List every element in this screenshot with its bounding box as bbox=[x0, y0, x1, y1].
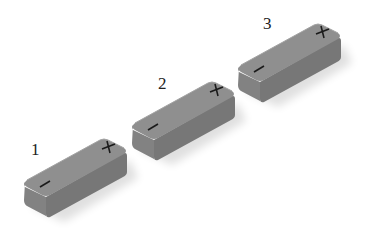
battery-diagram bbox=[0, 0, 368, 234]
battery-3 bbox=[238, 24, 352, 107]
battery-1-label: 1 bbox=[31, 141, 40, 158]
battery-3-label: 3 bbox=[263, 15, 272, 32]
battery-1 bbox=[24, 139, 138, 222]
battery-2 bbox=[132, 82, 246, 165]
battery-2-label: 2 bbox=[158, 75, 167, 92]
